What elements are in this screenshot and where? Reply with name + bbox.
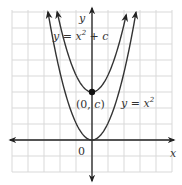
graph: y x 0 (0, c) y = x2 + c y = x2 <box>0 0 182 185</box>
shifted-curve-label: y = x2 + c <box>52 29 108 43</box>
origin-label: 0 <box>78 145 85 158</box>
vertex-point-dot <box>89 89 95 95</box>
y-axis-label: y <box>78 12 86 25</box>
x-axis-label: x <box>170 147 177 160</box>
vertex-point-label: (0, c) <box>76 98 105 111</box>
base-curve-label: y = x2 <box>120 96 155 110</box>
